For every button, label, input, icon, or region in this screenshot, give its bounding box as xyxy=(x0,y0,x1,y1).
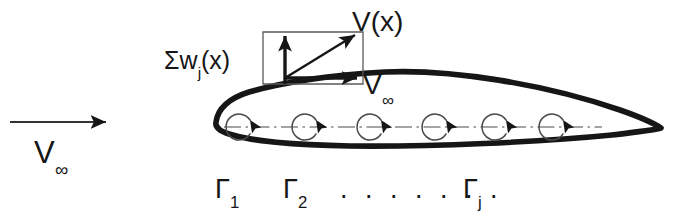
freestream-velocity-label: V∞ xyxy=(34,137,68,174)
airfoil-vortex-diagram: V∞ Σwj(x) V(x) V∞ Γ1 Γ2 . . . . . . . Γj xyxy=(0,0,677,222)
gamma-1-subscript: 1 xyxy=(230,193,239,212)
gamma-2-subscript: 2 xyxy=(298,193,307,212)
induced-velocity-sum-subscript: j xyxy=(198,64,201,81)
local-freestream-symbol: V xyxy=(363,69,382,100)
velocity-vector-triangle xyxy=(285,35,357,84)
induced-velocity-sum-symbol: Σw xyxy=(164,46,198,74)
resultant-velocity-arrow xyxy=(285,35,355,78)
gamma-1-symbol: Γ xyxy=(215,174,230,204)
diagram-canvas xyxy=(0,0,677,222)
induced-velocity-sum-argument: (x) xyxy=(201,46,230,74)
gamma-2-label: Γ2 xyxy=(283,176,307,208)
gamma-j-symbol: Γ xyxy=(463,174,478,204)
local-freestream-subscript: ∞ xyxy=(382,91,394,110)
local-freestream-label: V∞ xyxy=(363,71,393,104)
airfoil-profile-path xyxy=(216,72,661,147)
gamma-j-label: Γj xyxy=(463,176,482,208)
gamma-1-label: Γ1 xyxy=(215,176,239,208)
gamma-j-subscript: j xyxy=(478,193,482,212)
local-velocity-label: V(x) xyxy=(352,8,403,36)
freestream-velocity-subscript: ∞ xyxy=(55,159,68,180)
induced-velocity-sum-label: Σwj(x) xyxy=(164,48,230,78)
airfoil-outline xyxy=(216,72,661,147)
gamma-2-symbol: Γ xyxy=(283,174,298,204)
freestream-velocity-symbol: V xyxy=(34,135,55,170)
